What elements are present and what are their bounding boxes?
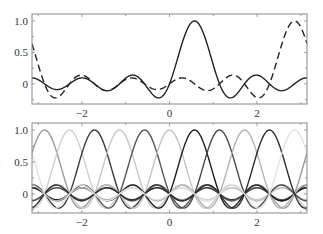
y-tick-label: 0.5	[14, 46, 28, 58]
y-tick-label: 0	[23, 78, 29, 90]
y-tick-label: 0.5	[14, 156, 28, 168]
x-tick-label: 2	[254, 107, 260, 119]
series-group	[32, 130, 307, 208]
x-tick-label: 0	[167, 216, 173, 228]
x-tick-label: 0	[167, 107, 173, 119]
chart-figure: −20200.51.0 −20200.51.0	[0, 0, 323, 234]
y-tick-label: 0	[23, 188, 29, 200]
top-panel: −20200.51.0	[14, 14, 307, 119]
y-tick-label: 1.0	[14, 124, 28, 136]
plot-frame	[32, 14, 307, 104]
series-group	[32, 21, 307, 98]
x-tick-label: 2	[254, 216, 260, 228]
x-tick-label: −2	[76, 216, 88, 228]
x-tick-label: −2	[76, 107, 88, 119]
bottom-panel: −20200.51.0	[14, 123, 307, 228]
y-tick-label: 1.0	[14, 15, 28, 27]
series-line	[32, 21, 307, 98]
series-line	[32, 21, 307, 98]
